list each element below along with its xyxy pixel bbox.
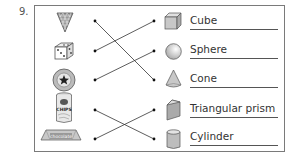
underline-cylinder (190, 145, 278, 146)
label-cone: Cone (190, 72, 285, 85)
cylinder-icon (165, 128, 181, 150)
underline-triangular-prism (190, 117, 278, 118)
underline-cube (190, 29, 278, 30)
triangular-prism-icon (165, 99, 181, 121)
cube-icon (163, 11, 183, 31)
underline-sphere (190, 58, 278, 59)
underline-cone (190, 87, 278, 88)
label-cube: Cube (190, 14, 285, 27)
cone-icon (164, 69, 182, 89)
label-sphere: Sphere (190, 43, 285, 56)
label-cylinder: Cylinder (190, 130, 285, 143)
sphere-icon (164, 42, 182, 60)
label-triangular-prism: Triangular prism (190, 102, 285, 115)
